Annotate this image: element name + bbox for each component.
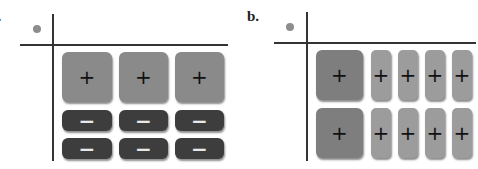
plus-icon: + xyxy=(400,65,417,85)
plus-icon: + xyxy=(331,65,348,85)
minus-icon: − xyxy=(135,111,152,131)
positive-rect-tile: + xyxy=(398,108,418,158)
negative-rect-tile: − xyxy=(119,138,168,159)
negative-rect-tile: − xyxy=(175,110,224,131)
plus-icon: + xyxy=(79,67,96,87)
plus-icon: + xyxy=(373,123,390,143)
minus-icon: − xyxy=(79,111,96,131)
positive-large-tile: + xyxy=(119,52,168,102)
positive-rect-tile: + xyxy=(371,108,391,158)
positive-large-tile: + xyxy=(316,108,363,158)
plus-icon: + xyxy=(135,67,152,87)
panel-a-label: a. xyxy=(0,9,1,24)
horizontal-axis xyxy=(274,42,476,44)
negative-rect-tile: − xyxy=(119,110,168,131)
plus-icon: + xyxy=(427,123,444,143)
vertical-axis xyxy=(52,14,54,161)
positive-rect-tile: + xyxy=(452,50,472,100)
minus-icon: − xyxy=(191,111,208,131)
panel-b-label: b. xyxy=(247,9,259,24)
positive-large-tile: + xyxy=(62,52,112,102)
positive-rect-tile: + xyxy=(425,50,445,100)
minus-icon: − xyxy=(135,139,152,159)
positive-rect-tile: + xyxy=(452,108,472,158)
plus-icon: + xyxy=(373,65,390,85)
plus-icon: + xyxy=(331,123,348,143)
negative-rect-tile: − xyxy=(175,138,224,159)
horizontal-axis xyxy=(20,44,228,46)
vertical-axis xyxy=(306,12,308,161)
plus-icon: + xyxy=(427,65,444,85)
plus-icon: + xyxy=(400,123,417,143)
negative-rect-tile: − xyxy=(62,110,112,131)
minus-icon: − xyxy=(79,139,96,159)
plus-icon: + xyxy=(191,67,208,87)
origin-dot xyxy=(33,25,41,33)
positive-rect-tile: + xyxy=(398,50,418,100)
minus-icon: − xyxy=(191,139,208,159)
plus-icon: + xyxy=(454,123,471,143)
positive-large-tile: + xyxy=(175,52,224,102)
positive-rect-tile: + xyxy=(371,50,391,100)
negative-rect-tile: − xyxy=(62,138,112,159)
plus-icon: + xyxy=(454,65,471,85)
origin-dot xyxy=(286,23,294,31)
positive-rect-tile: + xyxy=(425,108,445,158)
positive-large-tile: + xyxy=(316,50,363,100)
